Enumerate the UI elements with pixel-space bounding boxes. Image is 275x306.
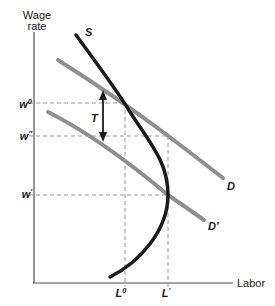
x-axis-title: Labor <box>237 277 265 289</box>
demand-curve-label: D <box>227 180 235 192</box>
tax-arrow-down-head <box>99 132 107 142</box>
labor-market-diagram: Wage rate Labor S D D′ T w0 w″ w′ L0 L′ <box>0 0 275 306</box>
wage-label-w0: w0 <box>19 97 33 110</box>
dashed-guides <box>29 103 170 287</box>
demand-curve-D-prime <box>48 112 204 220</box>
wage-label-w-prime: w′ <box>22 187 34 200</box>
tax-label: T <box>91 112 99 124</box>
supply-curve-S <box>76 35 168 277</box>
demand-prime-curve-label: D′ <box>208 220 220 232</box>
labor-label-L0: L0 <box>116 286 128 299</box>
figure-canvas: Wage rate Labor S D D′ T w0 w″ w′ L0 L′ <box>0 0 275 306</box>
wage-label-w-double-prime: w″ <box>20 129 33 142</box>
supply-curve-label: S <box>85 26 93 38</box>
demand-curve-D <box>58 60 223 178</box>
labor-label-L-prime: L′ <box>162 286 172 299</box>
tax-arrow <box>99 90 107 142</box>
y-axis-title-line2: rate <box>28 20 47 32</box>
